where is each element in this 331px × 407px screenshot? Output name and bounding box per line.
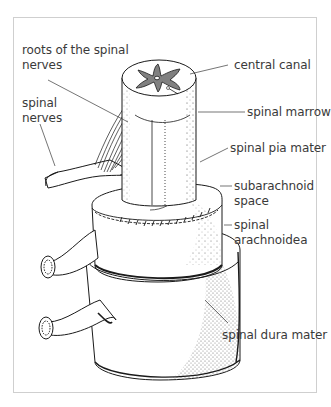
label-subarachnoid-line2: space <box>234 194 314 209</box>
label-spinal-arachnoidea: spinal arachnoidea <box>234 218 307 248</box>
label-arachnoidea-line1: spinal <box>234 218 307 233</box>
label-spinal-marrow: spinal marrow <box>247 105 331 120</box>
label-central-canal: central canal <box>234 58 311 73</box>
label-pia-mater-line1: spinal pia mater <box>230 141 326 156</box>
label-spinal-nerves-line2: nerves <box>22 111 62 126</box>
label-spinal-marrow-line1: spinal marrow <box>247 105 331 120</box>
label-central-canal-line1: central canal <box>234 58 311 73</box>
spinal-nerves-leader <box>40 124 55 166</box>
label-subarachnoid-space: subarachnoid space <box>234 179 314 209</box>
label-roots-line1: roots of the spinal <box>22 43 129 58</box>
label-spinal-pia-mater: spinal pia mater <box>230 141 326 156</box>
label-subarachnoid-line1: subarachnoid <box>234 179 314 194</box>
central-canal-leader <box>190 65 228 74</box>
label-dura-mater-line1: spinal dura mater <box>222 328 327 343</box>
label-roots-of-spinal-nerves: roots of the spinal nerves <box>22 43 129 73</box>
label-spinal-dura-mater: spinal dura mater <box>222 328 327 343</box>
label-arachnoidea-line2: arachnoidea <box>234 233 307 248</box>
label-spinal-nerves-line1: spinal <box>22 96 62 111</box>
pia-mater-leader <box>200 148 228 162</box>
label-spinal-nerves: spinal nerves <box>22 96 62 126</box>
label-roots-line2: nerves <box>22 58 129 73</box>
